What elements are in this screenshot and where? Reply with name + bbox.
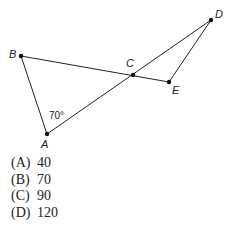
geometry-figure: B C E D A 70°: [0, 0, 234, 150]
choice-c: (C)90: [11, 188, 58, 205]
choice-a: (A)40: [11, 155, 58, 172]
label-e: E: [172, 84, 180, 96]
angle-label: 70°: [49, 110, 64, 121]
point-e: [167, 80, 171, 84]
answer-choices: (A)40 (B)70 (C)90 (D)120: [11, 155, 58, 221]
segment-ab: [21, 56, 47, 134]
segment-ad: [47, 20, 211, 134]
point-b: [19, 54, 23, 58]
choice-b: (B)70: [11, 172, 58, 189]
choice-d: (D)120: [11, 205, 58, 222]
label-b: B: [9, 48, 16, 60]
point-c: [131, 73, 135, 77]
segment-be: [21, 56, 169, 82]
label-c: C: [126, 57, 134, 69]
point-d: [209, 18, 213, 22]
segment-de: [169, 20, 211, 82]
point-a: [45, 132, 49, 136]
label-d: D: [215, 8, 223, 20]
label-a: A: [40, 138, 48, 150]
